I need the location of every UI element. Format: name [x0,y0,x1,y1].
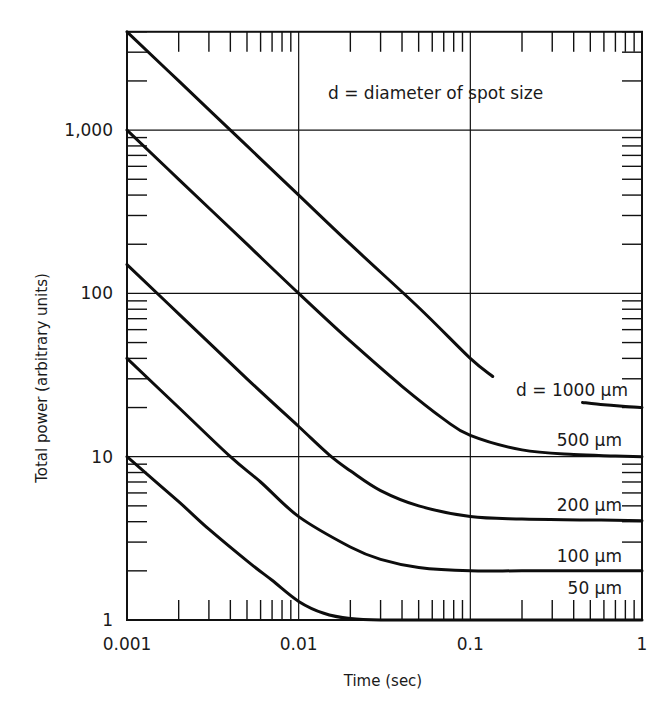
curve-label-200um: 200 μm [557,495,622,515]
curve-label-1000um: d = 1000 μm [516,380,628,400]
annotation-spot-size: d = diameter of spot size [328,83,543,103]
curves [127,32,642,620]
curve-label-500um: 500 μm [557,430,622,450]
chart: 0.0010.010.111101001,000 d = diameter of… [0,0,672,713]
plot-frame [127,32,642,620]
x-tick-label: 1 [637,634,648,654]
curve-50um [127,457,642,620]
grid [127,32,642,620]
curve-label-100um: 100 μm [557,546,622,566]
x-tick-label: 0.1 [457,634,484,654]
x-tick-label: 0.01 [280,634,318,654]
y-tick-label: 10 [91,447,113,467]
minor-ticks [127,32,642,620]
y-tick-label: 1,000 [64,120,113,140]
curve-1000um [583,402,643,407]
x-tick-label: 0.001 [103,634,152,654]
curve-label-50um: 50 μm [568,578,622,598]
y-axis-title: Total power (arbitrary units) [33,273,51,484]
y-tick-label: 100 [81,283,113,303]
y-tick-label: 1 [102,610,113,630]
x-axis-title: Time (sec) [343,672,422,690]
